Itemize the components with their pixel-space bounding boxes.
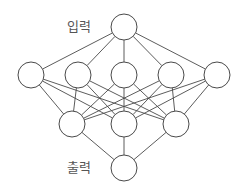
edge-hidden-1-1-to-hidden-2-0 — [74, 88, 77, 111]
node-hidden-1-4 — [204, 62, 230, 88]
node-hidden-1-1 — [65, 62, 91, 88]
output-label: 출력 — [67, 160, 91, 176]
edge-input-0-to-hidden-1-3 — [133, 36, 162, 65]
node-hidden-1-2 — [111, 62, 137, 88]
node-input-0 — [111, 14, 137, 40]
edge-hidden-1-0-to-hidden-2-0 — [39, 85, 63, 114]
node-hidden-2-0 — [59, 111, 85, 137]
connections — [39, 33, 208, 160]
edge-hidden-2-2-to-output-0 — [134, 132, 166, 159]
input-label: 입력 — [67, 19, 91, 35]
node-hidden-2-1 — [111, 111, 137, 137]
edge-hidden-2-0-to-output-0 — [82, 132, 114, 159]
edge-input-0-to-hidden-1-1 — [87, 36, 115, 65]
node-hidden-2-2 — [163, 111, 189, 137]
neural-network-diagram — [0, 0, 244, 194]
edge-hidden-1-4-to-hidden-2-2 — [184, 85, 208, 114]
node-hidden-1-0 — [18, 62, 44, 88]
node-output-0 — [111, 155, 137, 181]
node-hidden-1-3 — [158, 62, 184, 88]
edge-hidden-1-3-to-hidden-2-2 — [172, 88, 174, 111]
